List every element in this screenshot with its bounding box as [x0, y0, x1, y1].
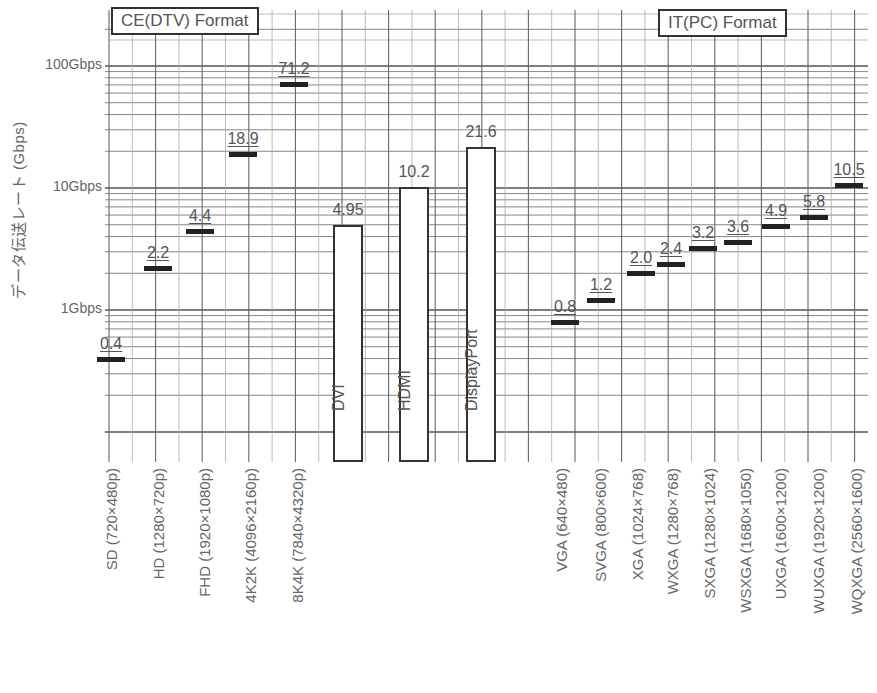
value-marker: [229, 152, 257, 157]
x-category-label: 4K2K (4096×2160p): [242, 468, 259, 603]
y-tick-10gbps: 10Gbps: [53, 178, 102, 194]
value-marker: [800, 215, 828, 220]
value-marker: [97, 357, 125, 362]
value-label: 10.5: [833, 161, 864, 179]
x-category: WUXGA (1920×1200): [807, 468, 829, 668]
x-category-label: 8K4K (7840×4320p): [289, 468, 306, 603]
y-axis-title-text: データ伝送レート (Gbps): [7, 121, 28, 299]
data-rate-chart: データ伝送レート (Gbps) 100Gbps 10Gbps 1Gbps CE(…: [0, 0, 877, 693]
x-category-label: FHD (1920×1080p): [196, 468, 213, 597]
x-category: 8K4K (7840×4320p): [286, 468, 308, 668]
y-axis-title: データ伝送レート (Gbps): [2, 80, 32, 340]
interface-bar-displayport: DisplayPort: [466, 147, 496, 462]
x-category: SD (720×480p): [100, 468, 122, 668]
value-label: 2.4: [660, 240, 682, 258]
value-label: 0.8: [554, 298, 576, 316]
x-category: 4K2K (4096×2160p): [239, 468, 261, 668]
value-label: 18.9: [227, 130, 258, 148]
x-category-label: WUXGA (1920×1200): [810, 468, 827, 614]
x-category: VGA (640×480): [550, 468, 572, 668]
value-marker: [144, 266, 172, 271]
interface-bar-hdmi: HDMI: [399, 187, 429, 462]
x-category: WQXGA (2560×1600): [845, 468, 867, 668]
x-category: SXGA (1280×1024): [698, 468, 720, 668]
x-category: UXGA (1600×1200): [769, 468, 791, 668]
x-category: SVGA (800×600): [589, 468, 611, 668]
x-category-label: HD (1280×720p): [150, 468, 167, 579]
value-marker: [657, 262, 685, 267]
value-marker: [587, 298, 615, 303]
value-marker: [689, 246, 717, 251]
x-category-label: WXGA (1280×768): [664, 468, 681, 594]
interface-label: DVI: [330, 384, 348, 411]
interface-value-label: 4.95: [332, 201, 363, 219]
value-label: 3.6: [727, 218, 749, 236]
x-category-label: UXGA (1600×1200): [772, 468, 789, 599]
value-marker: [835, 183, 863, 188]
value-label: 71.2: [278, 60, 309, 78]
x-category-label: SXGA (1280×1024): [701, 468, 718, 599]
y-tick-1gbps: 1Gbps: [61, 300, 102, 316]
x-category-label: XGA (1024×768): [629, 468, 646, 580]
x-category: FHD (1920×1080p): [193, 468, 215, 668]
interface-value-label: 10.2: [398, 163, 429, 181]
y-tick-100gbps: 100Gbps: [45, 56, 102, 72]
value-label: 4.4: [189, 207, 211, 225]
x-category: HD (1280×720p): [147, 468, 169, 668]
legend-it-format: IT(PC) Format: [658, 9, 787, 37]
value-label: 0.4: [100, 335, 122, 353]
interface-bar-dvi: DVI: [333, 225, 363, 462]
interface-value-label: 21.6: [465, 123, 496, 141]
value-marker: [762, 224, 790, 229]
interface-label: HDMI: [396, 370, 414, 411]
value-label: 1.2: [590, 276, 612, 294]
x-category: XGA (1024×768): [626, 468, 648, 668]
value-marker: [551, 320, 579, 325]
value-marker: [186, 229, 214, 234]
value-label: 2.2: [147, 244, 169, 262]
legend-ce-format: CE(DTV) Format: [111, 7, 259, 35]
x-category: WSXGA (1680×1050): [734, 468, 756, 668]
x-category-label: SD (720×480p): [103, 468, 120, 570]
interface-label: DisplayPort: [463, 329, 481, 411]
x-category-label: WQXGA (2560×1600): [848, 468, 865, 614]
x-category-label: VGA (640×480): [553, 468, 570, 572]
value-label: 3.2: [692, 224, 714, 242]
value-marker: [280, 82, 308, 87]
value-label: 4.9: [765, 202, 787, 220]
value-label: 2.0: [630, 249, 652, 267]
x-category-label: SVGA (800×600): [592, 468, 609, 582]
value-label: 5.8: [803, 193, 825, 211]
value-marker: [724, 240, 752, 245]
x-category-label: WSXGA (1680×1050): [737, 468, 754, 613]
x-category: WXGA (1280×768): [661, 468, 683, 668]
value-marker: [627, 271, 655, 276]
